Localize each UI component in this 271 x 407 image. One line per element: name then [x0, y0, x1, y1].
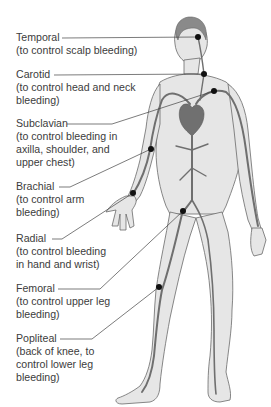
label-desc: (to control head and neck bleeding) — [16, 81, 136, 107]
label-brachial: Brachial (to control arm bleeding) — [16, 180, 84, 219]
label-name: Brachial — [16, 180, 54, 192]
label-name: Subclavian — [16, 117, 68, 129]
label-femoral: Femoral (to control upper leg bleeding) — [16, 282, 110, 321]
label-name: Temporal — [16, 31, 60, 43]
label-desc: (to control scalp bleeding) — [16, 44, 137, 57]
label-temporal: Temporal (to control scalp bleeding) — [16, 31, 137, 57]
carotid-dot — [201, 71, 207, 77]
label-subclavian: Subclavian (to control bleeding in axill… — [16, 117, 117, 169]
label-name: Popliteal — [16, 332, 57, 344]
label-desc: (to control bleeding in axilla, shoulder… — [16, 130, 117, 169]
temporal-dot — [195, 34, 201, 40]
label-desc: (to control bleeding in hand and wrist) — [16, 245, 106, 271]
label-desc: (to control arm bleeding) — [16, 193, 84, 219]
label-name: Radial — [16, 232, 46, 244]
popliteal-dot — [156, 284, 162, 290]
femoral-dot — [180, 208, 186, 214]
brachial-dot — [148, 146, 154, 152]
radial-dot — [130, 190, 136, 196]
label-desc: (back of knee, to control lower leg blee… — [16, 345, 94, 384]
label-name: Carotid — [16, 68, 50, 80]
label-name: Femoral — [16, 282, 55, 294]
subclavian-dot — [211, 88, 217, 94]
label-desc: (to control upper leg bleeding) — [16, 295, 110, 321]
label-carotid: Carotid (to control head and neck bleedi… — [16, 68, 136, 107]
label-radial: Radial (to control bleeding in hand and … — [16, 232, 106, 271]
label-popliteal: Popliteal (back of knee, to control lowe… — [16, 332, 94, 384]
